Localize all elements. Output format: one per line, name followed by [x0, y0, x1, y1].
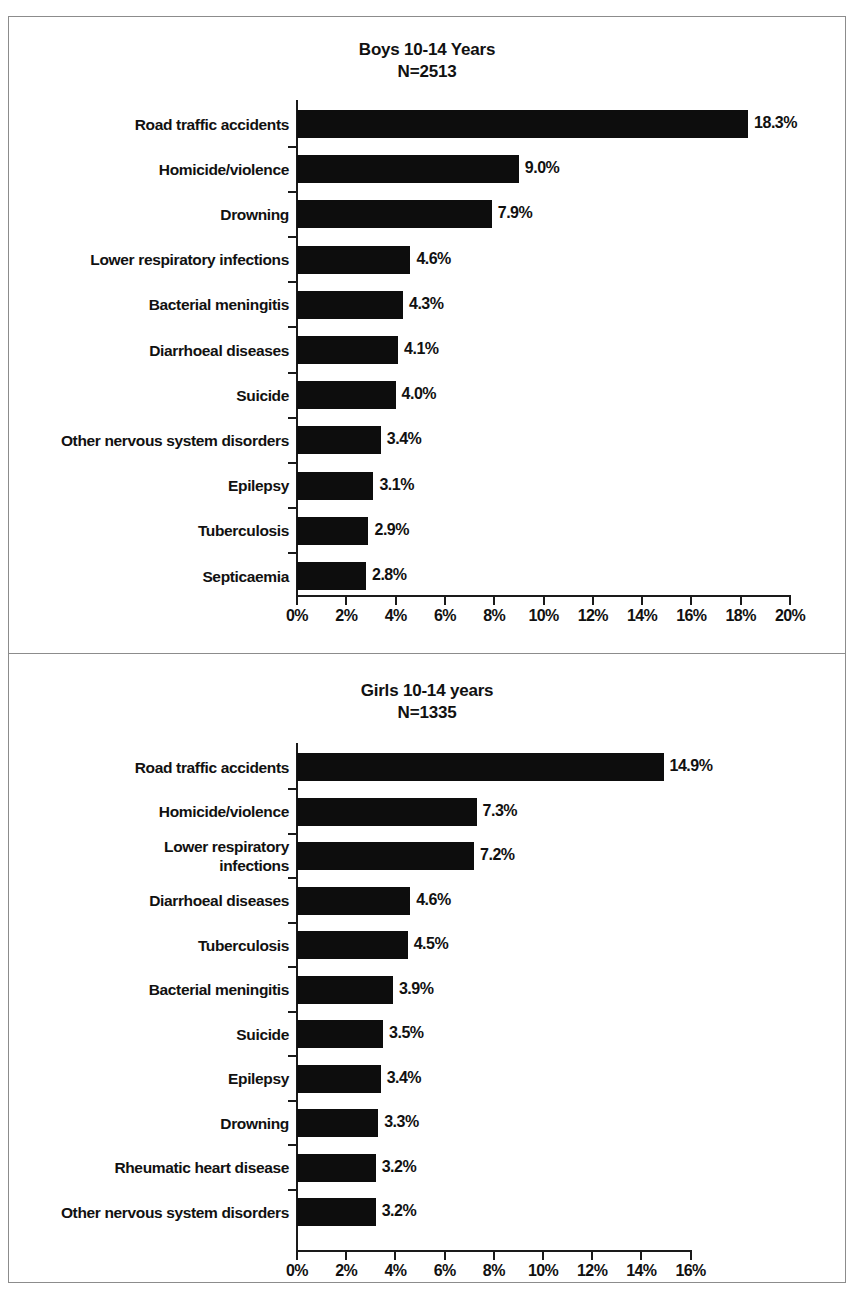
x-axis-tick: [394, 1252, 396, 1260]
bar-value-label: 3.4%: [387, 1069, 421, 1087]
bar: [297, 426, 381, 454]
category-label: Drowning: [9, 1114, 289, 1133]
y-axis-tick: [288, 281, 296, 283]
category-label: Diarrhoeal diseases: [9, 341, 289, 360]
category-label: Rheumatic heart disease: [9, 1158, 289, 1177]
x-axis-tick: [444, 597, 446, 605]
bar-value-label: 14.9%: [670, 757, 713, 775]
bar: [297, 562, 366, 590]
bar: [297, 200, 492, 228]
y-axis-tick: [288, 1100, 296, 1102]
category-label: Lower respiratory infections: [9, 837, 289, 875]
figure-outer-frame: Boys 10-14 Years N=2513 0%2%4%6%8%10%12%…: [8, 16, 846, 1283]
bar: [297, 155, 519, 183]
y-axis-tick: [288, 1189, 296, 1191]
bar: [297, 381, 396, 409]
bar-value-label: 2.8%: [372, 566, 406, 584]
category-label: Suicide: [9, 386, 289, 405]
category-label: Road traffic accidents: [9, 115, 289, 134]
x-axis-tick: [444, 1252, 446, 1260]
bar: [297, 753, 664, 781]
x-axis-tick: [345, 597, 347, 605]
x-axis-tick: [543, 597, 545, 605]
x-axis-tick: [345, 1252, 347, 1260]
bar-value-label: 4.5%: [414, 935, 448, 953]
bar: [297, 976, 393, 1004]
category-label: Bacterial meningitis: [9, 980, 289, 999]
y-axis-tick: [288, 462, 296, 464]
plot-area-boys: 0%2%4%6%8%10%12%14%16%18%20%Road traffic…: [9, 17, 845, 655]
bar: [297, 517, 368, 545]
bar: [297, 336, 398, 364]
y-axis-tick: [288, 833, 296, 835]
y-axis-tick: [288, 1055, 296, 1057]
x-axis-tick: [592, 597, 594, 605]
bar-value-label: 18.3%: [754, 114, 797, 132]
category-label: Suicide: [9, 1025, 289, 1044]
y-axis-tick: [288, 966, 296, 968]
x-axis-tick: [641, 597, 643, 605]
bar: [297, 291, 403, 319]
x-axis-tick: [296, 1252, 298, 1260]
bar-value-label: 3.5%: [389, 1024, 423, 1042]
y-axis-tick: [288, 552, 296, 554]
bar-value-label: 3.4%: [387, 430, 421, 448]
category-label: Epilepsy: [9, 1069, 289, 1088]
x-axis-tick: [690, 597, 692, 605]
category-label: Other nervous system disorders: [9, 431, 289, 450]
x-axis-tick: [493, 597, 495, 605]
bar-value-label: 3.2%: [382, 1202, 416, 1220]
bar: [297, 887, 410, 915]
category-label: Homicide/violence: [9, 160, 289, 179]
x-axis-tick: [493, 1252, 495, 1260]
bar: [297, 110, 748, 138]
bar-value-label: 4.1%: [404, 340, 438, 358]
category-label: Lower respiratory infections: [9, 250, 289, 269]
category-label: Epilepsy: [9, 476, 289, 495]
y-axis-tick: [288, 922, 296, 924]
bar-value-label: 4.6%: [416, 891, 450, 909]
category-label: Other nervous system disorders: [9, 1203, 289, 1222]
x-axis-tick-label: 20%: [760, 607, 820, 625]
bar: [297, 1020, 383, 1048]
bar-value-label: 7.2%: [480, 846, 514, 864]
bar-value-label: 9.0%: [525, 159, 559, 177]
category-label: Septicaemia: [9, 567, 289, 586]
bar-value-label: 2.9%: [374, 521, 408, 539]
bar-value-label: 3.1%: [379, 476, 413, 494]
bar: [297, 842, 474, 870]
bar-value-label: 4.3%: [409, 295, 443, 313]
bar: [297, 798, 477, 826]
bar: [297, 472, 373, 500]
y-axis-tick: [288, 146, 296, 148]
bar: [297, 246, 410, 274]
x-axis-tick: [296, 597, 298, 605]
bar-value-label: 7.9%: [498, 204, 532, 222]
plot-area-girls: 0%2%4%6%8%10%12%14%16%Road traffic accid…: [9, 654, 845, 1299]
chart-panel-girls: Girls 10-14 years N=1335 0%2%4%6%8%10%12…: [9, 654, 845, 1282]
y-axis-tick: [288, 191, 296, 193]
category-label: Tuberculosis: [9, 521, 289, 540]
category-label: Road traffic accidents: [9, 758, 289, 777]
bar-value-label: 3.2%: [382, 1158, 416, 1176]
bar: [297, 1065, 381, 1093]
bar: [297, 1198, 376, 1226]
category-label: Tuberculosis: [9, 936, 289, 955]
chart-panel-boys: Boys 10-14 Years N=2513 0%2%4%6%8%10%12%…: [9, 17, 845, 654]
x-axis-tick-label: 16%: [661, 1262, 721, 1280]
x-axis-tick: [591, 1252, 593, 1260]
category-label: Homicide/violence: [9, 802, 289, 821]
y-axis-tick: [288, 877, 296, 879]
x-axis-tick: [395, 597, 397, 605]
y-axis-tick: [288, 788, 296, 790]
y-axis-tick: [288, 507, 296, 509]
bar-value-label: 4.0%: [402, 385, 436, 403]
bar: [297, 931, 408, 959]
x-axis-tick: [740, 597, 742, 605]
category-label: Drowning: [9, 205, 289, 224]
bar-value-label: 3.3%: [384, 1113, 418, 1131]
category-label: Diarrhoeal diseases: [9, 891, 289, 910]
y-axis-tick: [288, 1144, 296, 1146]
y-axis-tick: [288, 417, 296, 419]
x-axis-tick: [789, 597, 791, 605]
